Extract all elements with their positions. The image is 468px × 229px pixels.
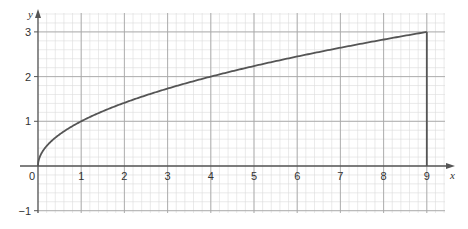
x-tick-label: 3 [165,170,171,182]
axes [20,9,455,213]
x-tick-label: 9 [424,170,430,182]
x-tick-label: 2 [121,170,127,182]
x-tick-label: 1 [78,170,84,182]
y-axis-label: y [27,8,33,20]
x-tick-label: 8 [381,170,387,182]
x-tick-label: 5 [251,170,257,182]
y-tick-label: 2 [25,71,31,83]
plot-series [38,32,427,166]
y-tick-label: 1 [25,115,31,127]
chart: 0123456789−1123 x y [0,0,468,229]
x-tick-label: 0 [29,170,35,182]
y-tick-label: −1 [18,205,31,217]
y-axis-arrow-icon [35,9,41,18]
y-tick-label: 3 [25,26,31,38]
x-tick-label: 4 [208,170,214,182]
x-axis-label: x [449,169,455,181]
curve-line [38,32,427,166]
x-tick-label: 6 [294,170,300,182]
x-tick-label: 7 [337,170,343,182]
